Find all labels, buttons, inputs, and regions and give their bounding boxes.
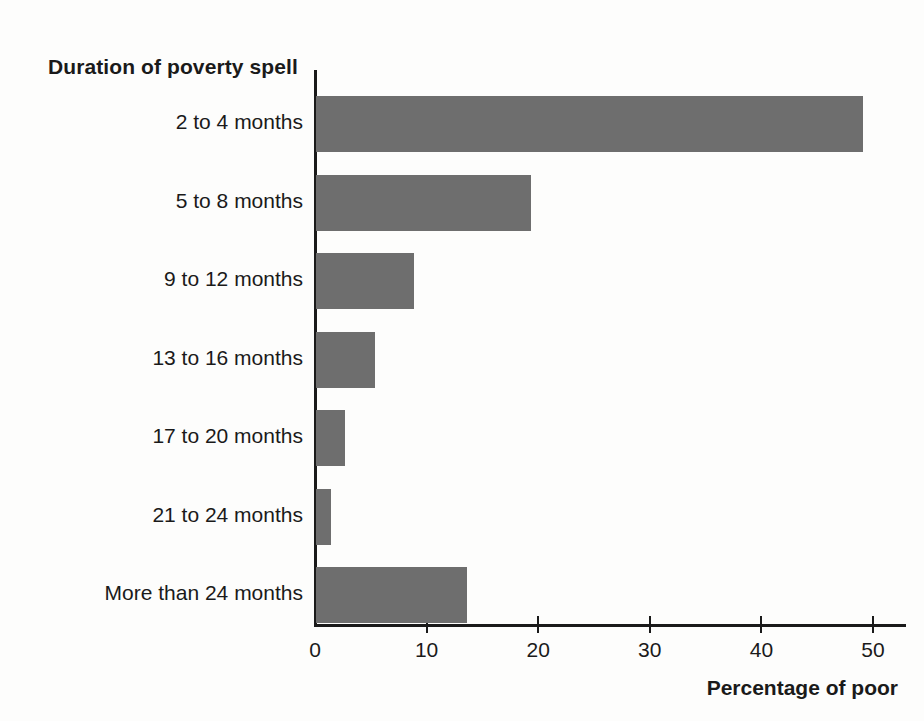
x-tick-label-10: 10	[415, 638, 438, 662]
category-label-5: 17 to 20 months	[152, 424, 303, 448]
category-label-7: More than 24 months	[105, 581, 303, 605]
x-axis-line	[314, 624, 906, 627]
category-label-6: 21 to 24 months	[152, 503, 303, 527]
bar-5[interactable]	[316, 410, 345, 466]
category-label-4: 13 to 16 months	[152, 346, 303, 370]
x-tick-50	[872, 616, 874, 633]
x-axis-title: Percentage of poor	[707, 676, 898, 700]
x-tick-label-20: 20	[527, 638, 550, 662]
x-tick-label-50: 50	[861, 638, 884, 662]
x-tick-20	[537, 616, 539, 633]
bar-6[interactable]	[316, 489, 331, 545]
x-tick-label-0: 0	[309, 638, 321, 662]
category-label-1: 2 to 4 months	[176, 110, 303, 134]
bar-7[interactable]	[316, 567, 467, 623]
x-tick-40	[760, 616, 762, 633]
x-tick-label-40: 40	[750, 638, 773, 662]
bar-2[interactable]	[316, 175, 531, 231]
x-tick-30	[649, 616, 651, 633]
plot-area: 01020304050 2 to 4 months5 to 8 months9 …	[0, 0, 924, 721]
bar-3[interactable]	[316, 253, 414, 309]
category-label-2: 5 to 8 months	[176, 189, 303, 213]
category-label-3: 9 to 12 months	[164, 267, 303, 291]
x-tick-label-30: 30	[638, 638, 661, 662]
chart-figure: Duration of poverty spell 01020304050 2 …	[0, 0, 924, 721]
bar-1[interactable]	[316, 96, 863, 152]
bar-4[interactable]	[316, 332, 375, 388]
